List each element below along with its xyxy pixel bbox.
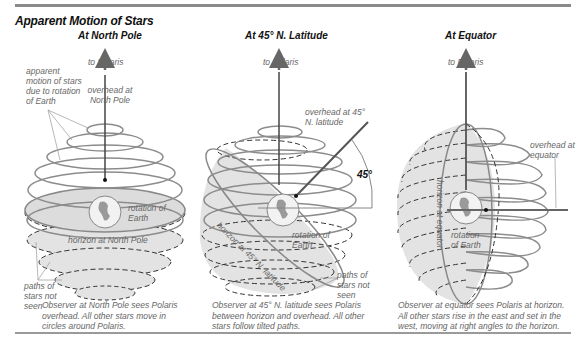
caption-north-pole: Observer at North Pole sees Polaris over… — [42, 300, 182, 332]
caption-equator: Observer at equator sees Polaris at hori… — [398, 300, 566, 332]
label-horizon-north-pole: horizon at North Pole — [68, 235, 148, 245]
label-rotation-2: rotation of Earth — [292, 230, 332, 250]
bottom-rule — [15, 332, 571, 334]
panel-heading-north-pole: At North Pole — [78, 30, 142, 41]
mid-latitude-diagram — [192, 58, 372, 301]
caption-45-latitude: Observer at 45° N. latitude sees Polaris… — [212, 300, 372, 332]
equator-diagram — [397, 58, 568, 305]
panel-heading-45-latitude: At 45° N. Latitude — [245, 30, 328, 41]
diagram-canvas — [0, 0, 579, 347]
label-overhead-equator: overhead at equator — [530, 140, 578, 160]
label-rotation-3: rotation of Earth — [451, 230, 487, 250]
label-overhead-north-pole: overhead at North Pole — [84, 85, 136, 105]
angle-label: 45° — [357, 169, 372, 180]
label-overhead-45: overhead at 45° N. latitude — [305, 107, 375, 127]
label-paths-not-seen-2: paths of stars not seen — [337, 270, 377, 300]
label-to-polaris-3: to Polaris — [448, 57, 483, 67]
label-apparent-motion: apparent motion of stars due to rotation… — [26, 66, 86, 106]
label-to-polaris-2: to Polaris — [263, 57, 298, 67]
label-rotation-1: rotation of Earth — [128, 203, 168, 223]
label-horizon-equator: horizon at equator — [435, 180, 445, 249]
label-to-polaris-1: to Polaris — [88, 57, 123, 67]
panel-heading-equator: At Equator — [445, 30, 496, 41]
